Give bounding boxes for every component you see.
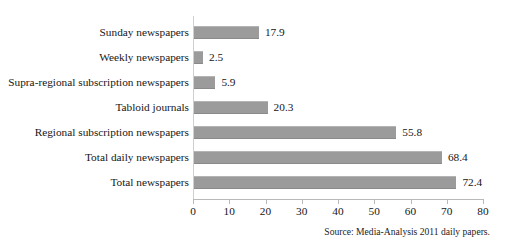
bar-value-label: 2.5 — [209, 45, 223, 70]
bar-row: Regional subscription newspapers55.8 — [0, 120, 505, 145]
bar-value-label: 5.9 — [221, 70, 235, 95]
bar-value-label: 68.4 — [448, 145, 468, 170]
x-axis-tick-label: 10 — [216, 204, 242, 218]
bar-value-label: 72.4 — [462, 170, 482, 195]
category-label: Total daily newspapers — [85, 145, 189, 170]
bar-row: Total newspapers72.4 — [0, 170, 505, 195]
bar — [194, 126, 396, 139]
horizontal-bar-chart: Sunday newspapers17.9Weekly newspapers2.… — [0, 0, 505, 247]
x-axis-tick-label: 60 — [398, 204, 424, 218]
x-axis-tick-label: 80 — [470, 204, 496, 218]
bar-value-label: 20.3 — [274, 95, 294, 120]
x-axis-tick-label: 70 — [434, 204, 460, 218]
bar — [194, 51, 203, 64]
bar — [194, 76, 215, 89]
bar — [194, 26, 259, 39]
x-axis-tick-label: 50 — [361, 204, 387, 218]
category-label: Tabloid journals — [115, 95, 189, 120]
x-axis-tick-label: 30 — [289, 204, 315, 218]
category-label: Supra-regional subscription newspapers — [8, 70, 189, 95]
x-axis-tick-label: 0 — [180, 204, 206, 218]
bar-value-label: 17.9 — [265, 20, 285, 45]
bar-row: Tabloid journals20.3 — [0, 95, 505, 120]
source-note: Source: Media-Analysis 2011 daily papers… — [324, 226, 490, 237]
bar-row: Weekly newspapers2.5 — [0, 45, 505, 70]
bar-row: Total daily newspapers68.4 — [0, 145, 505, 170]
bar-row: Supra-regional subscription newspapers5.… — [0, 70, 505, 95]
x-axis-tick-label: 20 — [253, 204, 279, 218]
bar-row: Sunday newspapers17.9 — [0, 20, 505, 45]
category-label: Weekly newspapers — [99, 45, 189, 70]
bar — [194, 176, 456, 189]
bar — [194, 151, 442, 164]
bar-value-label: 55.8 — [402, 120, 422, 145]
bar — [194, 101, 268, 114]
category-label: Regional subscription newspapers — [35, 120, 189, 145]
category-label: Sunday newspapers — [100, 20, 189, 45]
x-axis-tick-label: 40 — [325, 204, 351, 218]
category-label: Total newspapers — [110, 170, 189, 195]
